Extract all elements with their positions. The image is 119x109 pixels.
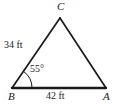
angle-measure-label-b: 55°: [30, 64, 44, 74]
triangle-side-ca: [60, 18, 106, 88]
side-length-label-ba: 42 ft: [46, 91, 65, 101]
side-length-label-bc: 34 ft: [4, 40, 23, 50]
vertex-label-b: B: [8, 91, 15, 102]
triangle-figure: C B A 34 ft 42 ft 55°: [0, 0, 119, 109]
triangle-side-bc: [12, 18, 60, 88]
vertex-label-c: C: [57, 1, 64, 12]
vertex-label-a: A: [103, 91, 110, 102]
